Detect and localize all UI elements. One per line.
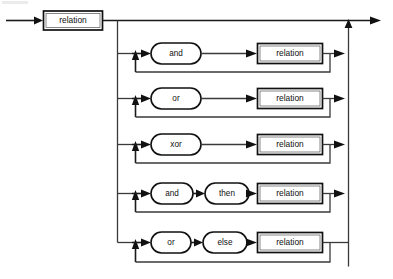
arrow-into-or [141, 95, 151, 103]
arrow-into-relation-and [246, 50, 257, 58]
loop-return-arrow-or-else [132, 239, 139, 249]
token-xor: xor [151, 134, 201, 155]
target-relation-or-else-label: relation [276, 237, 304, 247]
right-collector-bus [345, 19, 353, 267]
target-relation-and-then: relation [258, 184, 323, 204]
loop-return-arrow-and-then [132, 190, 139, 200]
arrow-to-collector-or [334, 95, 345, 103]
alternative-row-xor: xor relation [118, 134, 346, 163]
alternative-row-and-then: and then relation [118, 183, 346, 212]
target-relation-or-else: relation [258, 233, 323, 253]
token-and-2-label: and [165, 189, 179, 198]
arrow-into-and [141, 50, 151, 58]
arrow-to-collector-and-then [334, 190, 345, 198]
token-or-label: or [172, 94, 180, 103]
head-relation-label: relation [59, 15, 87, 25]
token-and-2: and [151, 183, 193, 204]
arrow-into-then [196, 190, 205, 198]
alternative-row-or: or relation [118, 88, 346, 117]
head-relation-box: relation [44, 11, 103, 30]
target-relation-and-then-label: relation [276, 188, 304, 198]
arrow-to-collector-and [334, 50, 345, 58]
loop-return-arrow-or [132, 95, 139, 105]
alternative-row-or-else: or else relation [118, 232, 349, 262]
entry-track [6, 17, 43, 25]
arrow-to-collector-xor [334, 141, 345, 149]
target-relation-or-label: relation [276, 93, 304, 103]
token-or-2: or [151, 232, 191, 253]
token-then-label: then [219, 189, 235, 198]
arrow-into-relation-or [246, 95, 257, 103]
token-xor-label: xor [170, 140, 182, 149]
railroad-diagram-canvas: relation and [0, 0, 393, 279]
exit-arrow [370, 17, 381, 25]
arrow-into-or-else-first [141, 239, 151, 247]
token-and-label: and [169, 49, 183, 58]
target-relation-and-label: relation [276, 48, 304, 58]
token-then: then [205, 183, 249, 204]
token-or: or [151, 88, 201, 109]
loop-return-arrow-and [132, 50, 139, 60]
target-relation-or: relation [258, 89, 323, 109]
arrow-into-and-then-first [141, 190, 151, 198]
token-and: and [151, 43, 201, 64]
arrow-into-relation-xor [246, 141, 257, 149]
token-else: else [203, 232, 247, 253]
top-bypass-track [103, 17, 382, 25]
token-or-2-label: or [167, 238, 175, 247]
arrow-into-xor [141, 141, 151, 149]
arrow-into-relation-and-then [246, 190, 257, 198]
railroad-diagram-svg: relation and [0, 0, 393, 279]
arrow-into-else [194, 239, 203, 247]
target-relation-xor-label: relation [276, 139, 304, 149]
arrow-into-relation-or-else [246, 239, 257, 247]
loop-return-arrow-xor [132, 141, 139, 151]
scan-artifact [2, 1, 28, 4]
target-relation-xor: relation [258, 135, 323, 155]
token-else-label: else [217, 238, 232, 247]
alternative-row-and: and relation [118, 43, 346, 72]
entry-arrow [34, 17, 43, 25]
target-relation-and: relation [258, 44, 323, 64]
